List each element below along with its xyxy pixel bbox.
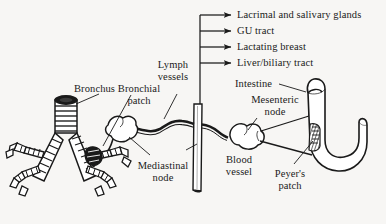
leader-blood-vessel-hook [150,153,163,157]
callout-mesenteric-node-line1: Mesenteric [243,94,307,106]
peyers-patch-shape [309,124,320,151]
lymphatic-trafficking-diagram: Lacrimal and salivary glands GU tract La… [0,0,386,224]
leader-bronchus [76,94,99,104]
callout-lymph-vessels: Lymph vessels [148,59,198,82]
callout-mediastinal-node-line2: node [131,172,195,184]
leader-peyers-patch [294,141,313,164]
callout-mediastinal-node: Mediastinal node [131,160,195,183]
callout-bronchus: Bronchus [74,83,115,95]
callout-lymph-vessels-line2: vessels [148,71,198,83]
destination-label-gu-tract: GU tract [237,25,274,37]
callout-blood-vessel-line1: Blood [218,154,260,166]
destination-arrow-tree [200,15,231,104]
callout-intestine: Intestine [235,78,272,90]
mesenteric-node-shape [230,124,264,149]
diagram-artwork [0,0,386,224]
mediastinal-node-shape [106,116,138,142]
bronchial-tree-shape [6,96,131,196]
callout-mesenteric-node: Mesenteric node [243,94,307,117]
callout-lymph-vessels-line1: Lymph [148,59,198,71]
lymph-vessel-shape [134,121,228,141]
callout-blood-vessel: Blood vessel [218,154,260,177]
callout-peyers-patch-line2: patch [266,180,314,192]
callout-bronchial-patch-line1: Bronchial [110,83,168,95]
callout-blood-vessel-line2: vessel [218,166,260,178]
destination-label-liver-biliary-tract: Liver/biliary tract [237,57,313,69]
callout-mediastinal-node-line1: Mediastinal [131,160,195,172]
callout-peyers-patch: Peyer's patch [266,168,314,191]
destination-label-lactating-breast: Lactating breast [237,41,306,53]
callout-mesenteric-node-line2: node [243,106,307,118]
destination-label-lacrimal-salivary-glands: Lacrimal and salivary glands [237,9,361,21]
callout-peyers-patch-line1: Peyer's [266,168,314,180]
leader-intestine [279,84,306,92]
leader-mediastinal-node [129,137,150,155]
callout-bronchial-patch: Bronchial patch [110,83,168,106]
callout-bronchial-patch-line2: patch [110,95,168,107]
